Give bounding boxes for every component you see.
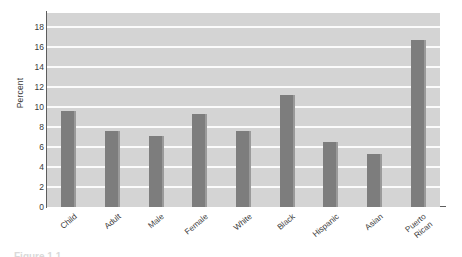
y-axis-tick-label: 2: [22, 182, 44, 192]
y-axis-tick-label: 12: [22, 82, 44, 92]
figure-caption: Figure 1.1: [14, 251, 61, 257]
x-axis-tick-label: Male: [123, 212, 166, 250]
bar[interactable]: [280, 95, 295, 207]
x-axis-tick-label: Child: [36, 212, 79, 250]
bars-layer: [47, 13, 440, 207]
bar[interactable]: [367, 154, 382, 207]
x-axis-tick-label: Puerto Rican: [385, 212, 434, 257]
x-axis-tick-label: White: [211, 212, 254, 250]
y-axis-tick-label: 16: [22, 42, 44, 52]
plot-area: [47, 13, 440, 207]
y-axis-tick-label: 6: [22, 142, 44, 152]
y-axis-tick-label: 8: [22, 122, 44, 132]
bar[interactable]: [149, 136, 164, 207]
bar[interactable]: [236, 131, 251, 207]
y-axis-tick-label: 10: [22, 102, 44, 112]
y-axis-tick-labels: 024681012141618: [22, 13, 44, 207]
x-axis-tick-label: Black: [254, 212, 297, 250]
bar[interactable]: [105, 131, 120, 207]
bar[interactable]: [323, 142, 338, 207]
x-axis-tick-label: Adult: [80, 212, 123, 250]
bar[interactable]: [61, 111, 76, 207]
bar[interactable]: [192, 114, 207, 207]
x-axis-tick-label: Asian: [342, 212, 385, 250]
x-axis-tick-label: Hispanic: [298, 212, 341, 250]
figure-root: Percent 024681012141618 ChildAdultMaleFe…: [0, 0, 462, 257]
x-axis-tick-labels: ChildAdultMaleFemaleWhiteBlackHispanicAs…: [47, 208, 440, 256]
bar[interactable]: [411, 40, 426, 207]
y-axis-tick-label: 14: [22, 62, 44, 72]
y-axis-tick-label: 4: [22, 162, 44, 172]
y-axis-tick-label: 0: [22, 202, 44, 212]
plot-frame: [47, 13, 440, 207]
y-axis-tick-label: 18: [22, 22, 44, 32]
x-axis-tick-label: Female: [167, 212, 210, 250]
